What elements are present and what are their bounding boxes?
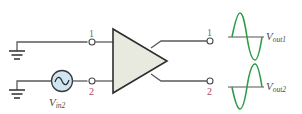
source-label: Vin2 <box>49 96 66 110</box>
input-terminal-2 <box>89 78 95 84</box>
vout2-label: Vout2 <box>266 80 286 94</box>
waveform-out1-icon <box>228 13 264 60</box>
diff-amp-diagram: Vin2 1 2 1 2 Vout1 Vout2 <box>0 0 302 114</box>
amplifier-triangle <box>113 29 167 93</box>
ground-icon <box>9 81 52 98</box>
output-wire-2 <box>151 74 207 81</box>
output-wire-1 <box>151 41 207 48</box>
ac-source <box>52 71 88 92</box>
circuit-canvas: Vin2 1 2 1 2 Vout1 Vout2 <box>0 0 302 114</box>
input-terminal-1 <box>89 39 95 45</box>
vout1-label: Vout1 <box>266 30 286 44</box>
output-terminal-1 <box>207 38 213 44</box>
output-terminal-2-label: 2 <box>207 86 212 97</box>
input-terminal-1-label: 1 <box>89 28 94 39</box>
output-terminal-1-label: 1 <box>207 27 212 38</box>
ground-icon <box>9 42 88 59</box>
output-terminal-2 <box>207 78 213 84</box>
input-terminal-2-label: 2 <box>89 86 94 97</box>
waveform-out2-icon <box>228 64 264 109</box>
